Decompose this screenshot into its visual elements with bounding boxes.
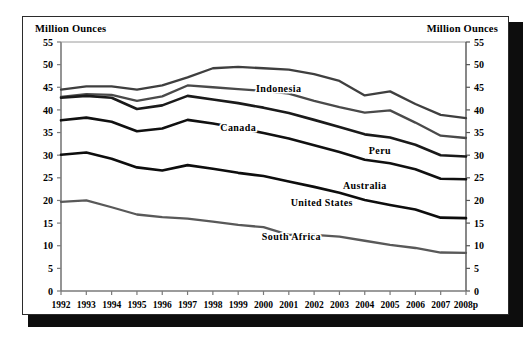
series-label-indonesia: Indonesia bbox=[256, 83, 301, 94]
y-tick-label-left: 0 bbox=[48, 286, 53, 297]
x-tick-label: 1997 bbox=[178, 300, 197, 310]
chart-frame: Million Ounces Million Ounces 0510152025… bbox=[22, 16, 509, 315]
series-label-australia: Australia bbox=[343, 180, 387, 191]
x-tick-label: 2004 bbox=[355, 300, 374, 310]
y-tick-label-right: 5 bbox=[474, 263, 479, 274]
series-label-peru: Peru bbox=[369, 145, 391, 156]
series-label-united-states: United States bbox=[291, 197, 353, 208]
x-tick-label: 1999 bbox=[229, 300, 248, 310]
y-tick-label-left: 10 bbox=[43, 240, 53, 251]
y-tick-label-right: 25 bbox=[474, 172, 484, 183]
y-tick-label-right: 50 bbox=[474, 59, 484, 70]
x-tick-label: 2002 bbox=[305, 300, 324, 310]
y-tick-label-right: 15 bbox=[474, 218, 484, 229]
y-tick-label-right: 45 bbox=[474, 82, 484, 93]
chart-screenshot: Million Ounces Million Ounces 0510152025… bbox=[0, 0, 529, 343]
x-tick-label: 2006 bbox=[406, 300, 425, 310]
y-tick-label-left: 15 bbox=[43, 218, 53, 229]
line-chart-svg: 0510152025303540455055 05101520253035404… bbox=[23, 17, 510, 316]
x-tick-label: 2005 bbox=[381, 300, 400, 310]
y-tick-label-left: 40 bbox=[43, 105, 53, 116]
plot-wrapper: Million Ounces Million Ounces 0510152025… bbox=[23, 17, 510, 316]
series-layer bbox=[61, 67, 466, 253]
y-tick-label-left: 45 bbox=[43, 82, 53, 93]
series-label-south-africa: South Africa bbox=[262, 231, 321, 242]
y-tick-label-right: 30 bbox=[474, 150, 484, 161]
x-tick-label: 1998 bbox=[203, 300, 222, 310]
y-tick-label-right: 40 bbox=[474, 105, 484, 116]
y-tick-label-left: 55 bbox=[43, 37, 53, 48]
series-labels-layer: IndonesiaIndonesiaPeruPeruCanadaCanadaAu… bbox=[220, 83, 391, 242]
x-tick-label: 2007 bbox=[431, 300, 450, 310]
x-tick-label: 1992 bbox=[52, 300, 71, 310]
y-tick-label-left: 35 bbox=[43, 127, 53, 138]
series-line-australia bbox=[61, 118, 466, 180]
y-tick-label-left: 50 bbox=[43, 59, 53, 70]
series-line-united-states bbox=[61, 152, 466, 218]
x-tick-label: 2008p bbox=[454, 300, 478, 310]
series-label-canada: Canada bbox=[220, 122, 256, 133]
y-tick-label-left: 20 bbox=[43, 195, 53, 206]
y-tick-label-right: 55 bbox=[474, 37, 484, 48]
y-axis-right: 0510152025303540455055 bbox=[466, 37, 484, 297]
x-tick-label: 1996 bbox=[153, 300, 172, 310]
x-axis: 1992199319941995199619971998199920002001… bbox=[52, 291, 479, 310]
x-tick-label: 1994 bbox=[102, 300, 121, 310]
y-tick-label-right: 0 bbox=[474, 286, 479, 297]
x-tick-label: 1995 bbox=[127, 300, 146, 310]
x-tick-label: 2003 bbox=[330, 300, 349, 310]
y-tick-label-left: 25 bbox=[43, 172, 53, 183]
x-tick-label: 2000 bbox=[254, 300, 273, 310]
x-tick-label: 1993 bbox=[77, 300, 96, 310]
y-tick-label-right: 10 bbox=[474, 240, 484, 251]
y-tick-label-left: 5 bbox=[48, 263, 53, 274]
y-tick-label-left: 30 bbox=[43, 150, 53, 161]
y-tick-label-right: 35 bbox=[474, 127, 484, 138]
x-tick-label: 2001 bbox=[279, 300, 298, 310]
y-tick-label-right: 20 bbox=[474, 195, 484, 206]
